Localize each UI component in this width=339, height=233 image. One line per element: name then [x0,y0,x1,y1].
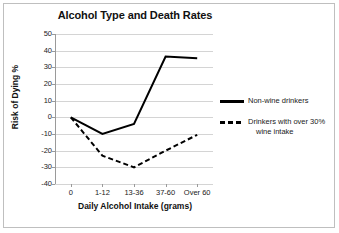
x-tick-mark [71,184,72,187]
solid-line-icon [220,100,244,103]
plot-area [55,34,213,184]
x-tick-mark [102,184,103,187]
chart-figure: Alcohol Type and Death Rates Risk of Dyi… [0,0,339,233]
chart-legend: Non-wine drinkersDrinkers with over 30%w… [220,96,336,148]
x-axis-tick-labels: 01-1213-3637-60Over 60 [55,188,213,200]
y-tick-label: 50 [30,30,52,38]
y-tick-label: 40 [30,47,52,55]
legend-label-line2: wine intake [256,127,336,137]
chart-title: Alcohol Type and Death Rates [40,9,230,21]
legend-item[interactable]: Drinkers with over 30%wine intake [220,117,336,137]
x-tick-mark [134,184,135,187]
y-tick-label: -40 [30,180,52,188]
y-axis-tick-labels: 50403020100-10-20-30-40 [28,34,52,184]
legend-item[interactable]: Non-wine drinkers [220,96,336,106]
legend-label: Drinkers with over 30%wine intake [248,117,336,137]
dashed-line-icon [220,121,244,124]
x-axis-title: Daily Alcohol Intake (grams) [40,201,230,211]
y-tick-label: -20 [30,147,52,155]
y-tick-label: 30 [30,63,52,71]
legend-label: Non-wine drinkers [248,96,336,106]
x-tick-mark [166,184,167,187]
y-tick-label: -10 [30,130,52,138]
y-tick-label: 0 [30,113,52,121]
y-tick-label: -30 [30,163,52,171]
y-axis-title: Risk of Dying % [10,42,20,152]
x-tick-label: Over 60 [175,188,219,197]
y-tick-mark [52,184,55,185]
series-lines [55,34,213,184]
y-tick-label: 10 [30,97,52,105]
series-line-1 [71,57,197,135]
x-tick-mark [197,184,198,187]
y-tick-label: 20 [30,80,52,88]
